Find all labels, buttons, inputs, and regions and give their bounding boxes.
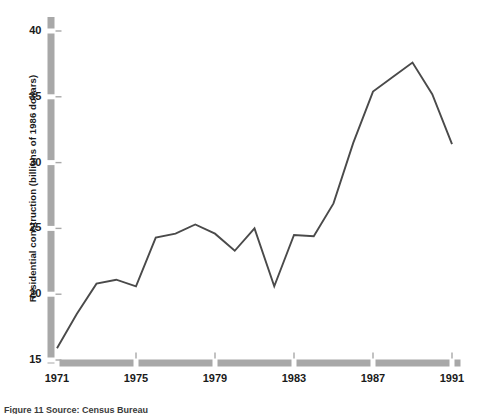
x-tick-label: 1983	[271, 372, 317, 384]
x-tick-label: 1987	[350, 372, 396, 384]
figure-caption: Figure 11 Source: Census Bureau	[4, 405, 148, 414]
y-axis-title: Residential construction (billions of 19…	[27, 74, 38, 304]
y-axis-segment	[48, 99, 55, 160]
y-axis	[48, 17, 62, 364]
x-axis-segment	[297, 360, 371, 367]
y-axis-segment	[48, 34, 55, 95]
y-tick-label: 40	[16, 24, 42, 36]
y-axis-segment	[48, 165, 55, 226]
x-axis-segment	[376, 360, 450, 367]
y-tick-label: 15	[16, 353, 42, 365]
figure-container: 152025303540 197119751979198319871991 Re…	[0, 0, 484, 414]
x-axis	[60, 353, 461, 367]
data-series-line	[57, 63, 452, 349]
x-tick-label: 1971	[34, 372, 80, 384]
x-axis-segment	[139, 360, 213, 367]
line-chart-plot	[0, 0, 484, 414]
y-axis-segment	[48, 17, 55, 29]
y-axis-segment	[48, 363, 55, 364]
x-tick-label: 1979	[192, 372, 238, 384]
y-axis-segment	[48, 231, 55, 292]
x-tick-label: 1991	[429, 372, 475, 384]
x-axis-segment	[455, 360, 461, 367]
x-axis-segment	[60, 360, 134, 367]
y-axis-segment	[48, 297, 55, 358]
x-tick-label: 1975	[113, 372, 159, 384]
x-axis-segment	[218, 360, 292, 367]
